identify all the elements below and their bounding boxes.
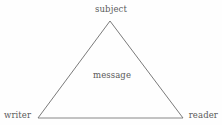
vertex-label-writer: writer xyxy=(4,110,31,120)
vertex-label-subject: subject xyxy=(0,4,222,14)
rhetorical-triangle-diagram: subject message writer reader xyxy=(0,0,222,125)
vertex-label-reader: reader xyxy=(189,110,218,120)
triangle-outline xyxy=(0,0,222,125)
interior-label-message: message xyxy=(0,70,222,80)
